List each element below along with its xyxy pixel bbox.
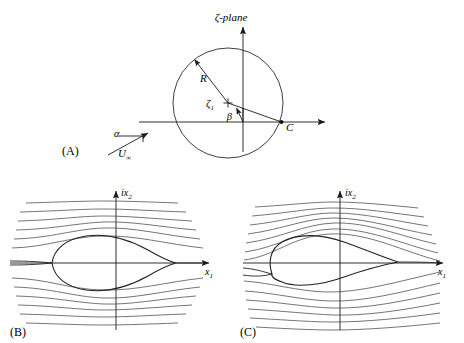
panel-a-plane-label: ζ-plane: [215, 11, 248, 24]
panel-a-beta-label: β: [226, 111, 233, 122]
panel-c-label: (C): [240, 325, 256, 339]
canvas-background: [0, 0, 464, 343]
panel-a-radius-label: R: [199, 72, 207, 84]
panel-b-label: (B): [10, 325, 26, 339]
panel-a-point-c-label: C: [286, 121, 294, 133]
figure-svg: ζ-plane R ζ1: [0, 0, 464, 343]
panel-a-point-c-marker: [280, 120, 284, 124]
figure-root: ζ-plane R ζ1: [0, 0, 464, 343]
panel-a-label: (A): [62, 144, 79, 158]
panel-a-alpha-label: α: [114, 128, 120, 139]
